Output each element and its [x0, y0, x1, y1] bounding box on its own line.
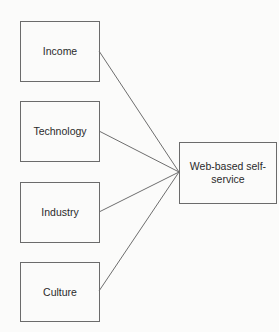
node-income: Income: [20, 21, 100, 82]
node-income-label: Income: [43, 45, 77, 58]
node-industry-label: Industry: [41, 206, 78, 219]
node-web-based-self-service: Web-based self-service: [179, 142, 277, 204]
edge-culture-to-target: [99, 172, 179, 291]
edge-technology-to-target: [99, 131, 179, 172]
diagram-canvas: Income Technology Industry Culture Web-b…: [0, 0, 279, 332]
node-target-label: Web-based self-service: [186, 160, 270, 186]
edge-income-to-target: [99, 51, 179, 172]
node-culture-label: Culture: [43, 286, 77, 299]
node-culture: Culture: [20, 262, 100, 322]
node-industry: Industry: [20, 182, 100, 243]
edge-industry-to-target: [99, 172, 179, 212]
node-technology-label: Technology: [33, 125, 86, 138]
node-technology: Technology: [20, 101, 100, 162]
